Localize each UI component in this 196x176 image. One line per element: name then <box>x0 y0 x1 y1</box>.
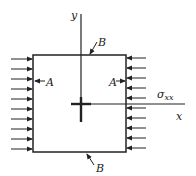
leader-top-B <box>90 42 97 54</box>
stress-subscript: xx <box>165 93 175 102</box>
left-edge-label: A <box>45 76 54 89</box>
top-edge-label: B <box>97 36 106 49</box>
leader-bottom-B <box>87 154 94 165</box>
bottom-edge-label: B <box>95 162 104 175</box>
stress-diagram: y x B B A A σxx <box>0 0 196 176</box>
x-axis-label: x <box>176 110 183 123</box>
right-arrows <box>127 58 146 148</box>
left-arrows <box>11 59 32 149</box>
right-edge-label: A <box>108 76 117 89</box>
stress-label: σxx <box>157 88 174 102</box>
y-axis-label: y <box>70 9 78 22</box>
